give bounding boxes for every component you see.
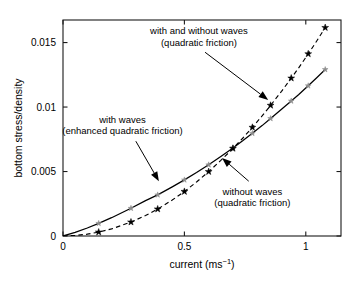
anno-right-text: without waves(quadratic friction): [214, 186, 290, 209]
data-marker: [128, 218, 135, 225]
x-axis-label: current (ms−1): [169, 257, 234, 271]
series-with-waves: [63, 67, 328, 236]
data-marker: [305, 50, 312, 57]
chart-canvas: 00.5100.0050.010.015current (ms−1)bottom…: [0, 0, 355, 283]
y-tick-label: 0.01: [37, 102, 57, 113]
anno-top-text: with and without waves(quadratic frictio…: [149, 25, 248, 48]
anno-top-arrow-head: [258, 91, 268, 100]
data-marker: [96, 220, 102, 225]
x-tick-label: 0: [60, 241, 66, 252]
anno-top-arrow-line: [205, 52, 261, 94]
curve-solid: [63, 70, 325, 236]
y-tick-label: 0: [50, 231, 56, 242]
anno-right: without waves(quadratic friction): [214, 158, 290, 209]
x-tick-label: 0.5: [177, 241, 191, 252]
y-axis-label: bottom stress/density: [12, 78, 24, 178]
anno-left: with waves(enhanced quadratic friction): [62, 114, 182, 181]
data-marker: [205, 168, 212, 175]
anno-left-arrow-head: [151, 171, 159, 181]
data-marker: [249, 124, 256, 131]
data-marker: [95, 229, 102, 236]
anno-left-arrow-line: [136, 141, 154, 173]
anno-right-arrow-line: [229, 164, 249, 181]
data-marker: [322, 24, 329, 31]
data-marker: [181, 188, 188, 195]
anno-left-text: with waves(enhanced quadratic friction): [62, 114, 182, 137]
x-tick-label: 1: [303, 241, 309, 252]
y-tick-label: 0.005: [31, 166, 56, 177]
y-tick-label: 0.015: [31, 37, 56, 48]
anno-top: with and without waves(quadratic frictio…: [149, 25, 268, 100]
data-marker: [154, 205, 161, 212]
data-marker: [288, 75, 295, 82]
figure-panel: 00.5100.0050.010.015current (ms−1)bottom…: [0, 0, 355, 283]
